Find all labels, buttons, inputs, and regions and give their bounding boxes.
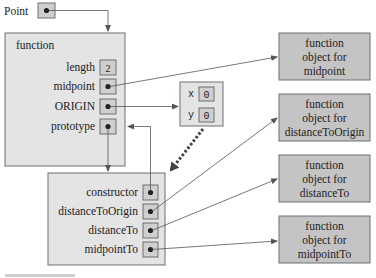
prototype-object: constructor distanceToOrigin distanceTo … (48, 173, 165, 265)
point-variable: Point (4, 3, 55, 18)
x-value: 0 (203, 90, 209, 101)
svg-text:object for: object for (302, 173, 347, 186)
constructor-ref-dot-icon (148, 190, 153, 195)
origin-ref-dot-icon (105, 104, 110, 109)
function-object: function length 2 midpoint ORIGIN protot… (5, 33, 125, 166)
prop-origin: ORIGIN (55, 100, 96, 112)
midpoint-ref-dot-icon (105, 84, 110, 89)
point-ref-dot-icon (44, 8, 49, 13)
svg-text:function: function (305, 220, 344, 232)
y-value: 0 (203, 111, 209, 122)
object-diagram: Point function length 2 midpoint ORIGIN … (0, 0, 376, 278)
prop-x: x (188, 89, 194, 100)
prop-y: y (188, 110, 194, 121)
svg-text:midpointTo: midpointTo (298, 248, 352, 261)
function-object-midpoint: function object for midpoint (279, 33, 370, 80)
prop-midpoint-to: midpointTo (84, 243, 138, 256)
caption-bar (5, 274, 75, 277)
function-object-midpoint-to: function object for midpointTo (279, 216, 370, 263)
svg-text:object for: object for (302, 112, 347, 125)
svg-text:function: function (305, 98, 344, 110)
prototype-chain-arrow (171, 129, 203, 170)
point-label: Point (4, 5, 29, 17)
svg-text:function: function (305, 159, 344, 171)
prop-distance-to: distanceTo (88, 224, 138, 236)
prop-distance-to-origin: distanceToOrigin (58, 205, 138, 218)
svg-text:distanceToOrigin: distanceToOrigin (285, 126, 365, 139)
prop-midpoint: midpoint (53, 80, 95, 93)
function-object-distance-to: function object for distanceTo (279, 155, 370, 202)
function-object-distance-to-origin: function object for distanceToOrigin (279, 94, 370, 141)
prop-length: length (66, 61, 95, 74)
svg-text:object for: object for (302, 51, 347, 64)
svg-text:midpoint: midpoint (304, 65, 346, 78)
function-title: function (16, 39, 55, 51)
prop-prototype: prototype (51, 120, 95, 133)
length-value: 2 (106, 63, 111, 74)
prop-constructor: constructor (86, 186, 138, 198)
svg-text:function: function (305, 37, 344, 49)
svg-text:distanceTo: distanceTo (300, 187, 350, 199)
svg-text:object for: object for (302, 234, 347, 247)
origin-object: x 0 y 0 (180, 82, 223, 126)
